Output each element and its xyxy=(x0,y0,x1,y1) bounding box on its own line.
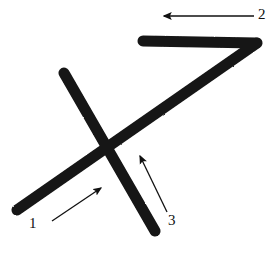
horizontal-top-stroke xyxy=(143,41,256,43)
annotation-label-3: 3 xyxy=(168,213,176,228)
long-diagonal-stroke xyxy=(17,43,257,210)
thick-stroke-group xyxy=(17,41,257,231)
annotation-label-2: 2 xyxy=(258,7,266,22)
annotation-label-1: 1 xyxy=(29,216,37,231)
figure-canvas: 1 2 3 xyxy=(0,0,275,254)
annotation-arrow-1 xyxy=(52,188,101,221)
crossing-diagonal-stroke xyxy=(64,73,155,231)
stroke-diagram xyxy=(0,0,275,254)
